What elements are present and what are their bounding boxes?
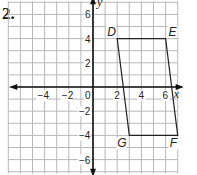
y-tick-label: 2 (85, 58, 91, 69)
coordinate-graph: yx−4−20246642−2−4−6DEFG (0, 0, 197, 175)
x-tick-label: 4 (138, 90, 144, 101)
y-axis-up-arrow-icon (90, 0, 96, 4)
x-tick-label: 0 (85, 90, 91, 101)
x-axis-left-arrow-icon (9, 84, 17, 90)
y-axis-label: y (96, 0, 103, 9)
vertex-label-E: E (169, 25, 178, 39)
vertex-label-D: D (107, 25, 116, 39)
y-tick-label: −6 (79, 155, 91, 166)
x-tick-label: −2 (62, 90, 74, 101)
x-tick-label: 6 (163, 90, 169, 101)
y-tick-label: −2 (79, 106, 91, 117)
y-tick-label: 6 (85, 9, 91, 20)
y-tick-label: 4 (85, 34, 91, 45)
y-tick-label: −4 (79, 130, 91, 141)
x-tick-label: 2 (114, 90, 120, 101)
vertex-label-F: F (170, 136, 178, 150)
vertex-label-G: G (117, 136, 126, 150)
x-axis-label: x (173, 87, 180, 101)
x-tick-label: −4 (38, 90, 50, 101)
